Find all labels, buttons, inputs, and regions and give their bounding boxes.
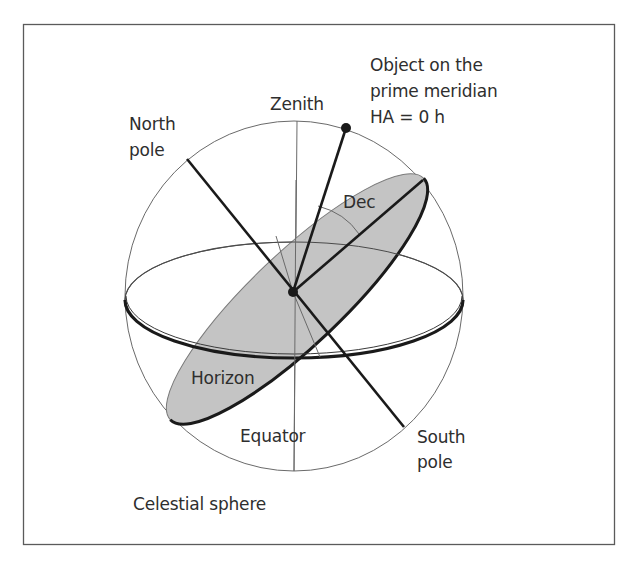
south-pole-label-line2: pole [417,452,453,472]
dec-label: Dec [343,192,375,212]
south-pole-label-line1: South [417,427,465,447]
observer-center-icon [288,287,298,297]
north-pole-label-line1: North [129,114,176,134]
object-label-line3: HA = 0 h [370,107,445,127]
object-label-line2: prime meridian [370,81,498,101]
equator-label: Equator [240,426,306,446]
horizon-label: Horizon [191,368,255,388]
celestial-sphere-diagram: Zenith North pole Object on the prime me… [0,0,637,567]
zenith-label: Zenith [270,94,324,114]
figure-caption: Celestial sphere [133,494,266,514]
object-point-icon [341,123,351,133]
north-pole-label-line2: pole [129,140,165,160]
object-label-line1: Object on the [370,55,483,75]
